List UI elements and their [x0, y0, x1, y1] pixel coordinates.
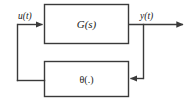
- block-diagram: G(s) θ(.) u(t) y(t): [0, 0, 194, 101]
- input-signal-label: u(t): [18, 11, 32, 22]
- forward-block-label: G(s): [77, 18, 97, 31]
- block-diagram-canvas: G(s) θ(.) u(t) y(t): [0, 0, 194, 101]
- output-signal-label: y(t): [139, 11, 153, 22]
- feedback-block-label: θ(.): [80, 74, 94, 86]
